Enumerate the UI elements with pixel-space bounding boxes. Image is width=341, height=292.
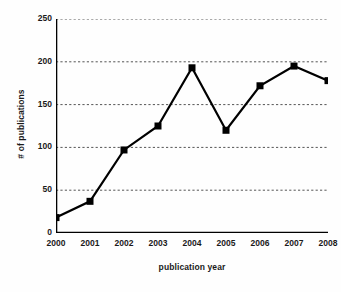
y-tick-label-250: 250: [26, 14, 52, 23]
y-tick-label-200: 200: [26, 57, 52, 66]
data-point-2003: [155, 123, 162, 130]
data-series-line: [56, 66, 328, 218]
x-axis-title: publication year: [56, 262, 328, 272]
y-tick-label-100: 100: [26, 142, 52, 151]
y-axis-tick-labels: 050100150200250: [26, 19, 52, 233]
chart-figure: # of publications 050100150200250 200020…: [0, 0, 341, 292]
series-path: [56, 66, 328, 218]
data-point-2002: [121, 146, 128, 153]
axis-lines: [56, 19, 328, 233]
plot-svg: [56, 19, 328, 233]
x-tick-label-2008: 2008: [308, 238, 341, 249]
data-point-2008: [325, 77, 329, 84]
data-series-markers: [56, 63, 328, 222]
data-point-2005: [223, 127, 230, 134]
x-axis-tick-labels: 200020012002200320042005200620072008: [56, 238, 328, 250]
gridlines: [56, 19, 328, 190]
data-point-2001: [87, 198, 94, 205]
data-point-2006: [257, 82, 264, 89]
y-tick-label-50: 50: [26, 185, 52, 194]
data-point-2000: [56, 214, 60, 221]
y-tick-label-0: 0: [26, 228, 52, 237]
y-tick-label-150: 150: [26, 100, 52, 109]
data-point-2004: [189, 64, 196, 71]
plot-area: [56, 19, 328, 233]
data-point-2007: [291, 63, 298, 70]
